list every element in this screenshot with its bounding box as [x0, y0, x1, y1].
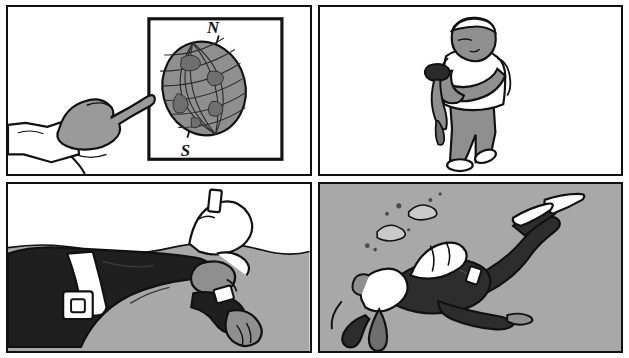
- panel-2-artwork: [320, 7, 622, 174]
- panel-1-artwork: N S: [8, 7, 310, 174]
- panel-bottom-left: [6, 182, 312, 353]
- panel-top-right: [318, 5, 624, 176]
- bubble-dot-5: [428, 198, 432, 202]
- buckle-slot: [71, 299, 85, 312]
- panel-bottom-right: [318, 182, 624, 353]
- bubble-dot-1: [364, 243, 369, 248]
- bubble-dot-7: [407, 228, 410, 231]
- diver-hand-underwater: [507, 314, 532, 325]
- globe-north-label: N: [206, 18, 220, 37]
- hand-held-compass: [424, 64, 449, 81]
- bubble-dot-6: [438, 192, 441, 195]
- left-shoe: [447, 159, 473, 171]
- bubble-dot-3: [385, 212, 389, 216]
- comic-strip: N S: [0, 0, 629, 358]
- globe-south-label: S: [181, 141, 190, 160]
- bubble-dot-4: [396, 203, 401, 208]
- panel-3-artwork: [8, 184, 310, 351]
- bubble-dot-2: [373, 248, 377, 252]
- tank-valve: [208, 189, 222, 212]
- panel-4-artwork: [320, 184, 622, 351]
- panel-top-left: N S: [6, 5, 312, 176]
